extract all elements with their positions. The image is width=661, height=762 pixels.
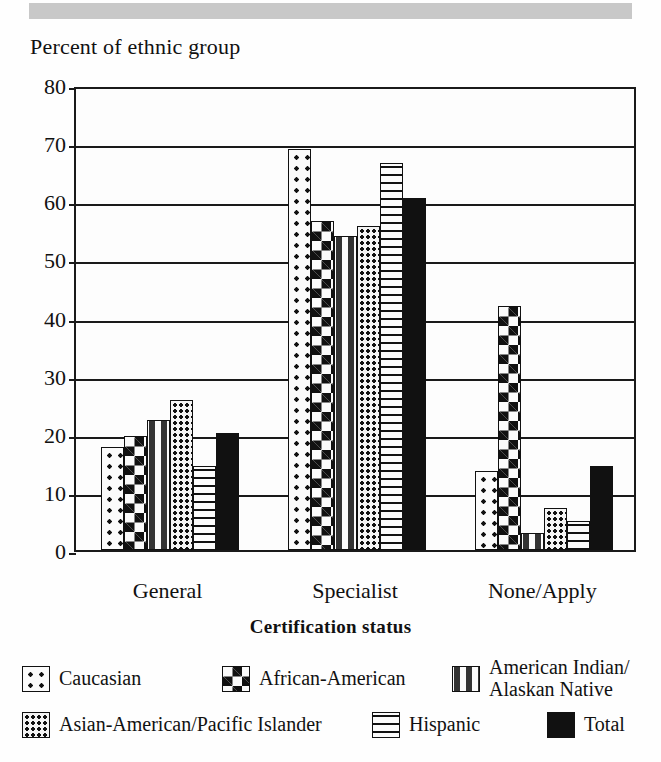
x-axis-tick-labels: GeneralSpecialistNone/Apply	[74, 578, 636, 608]
legend-label: Caucasian	[59, 668, 141, 690]
chart-plot-area: 80706050403020100	[28, 78, 638, 568]
y-tick-label: 60	[44, 192, 66, 214]
bar	[544, 508, 567, 550]
y-axis-tick	[69, 379, 76, 381]
bar	[311, 221, 334, 550]
y-axis-tick	[69, 495, 76, 497]
bar	[216, 433, 239, 550]
legend-item: Asian-American/Pacific Islander	[22, 712, 322, 738]
chart-legend: CaucasianAfrican-AmericanAmerican Indian…	[22, 656, 650, 748]
legend-item: American Indian/Alaskan Native	[452, 657, 630, 700]
y-axis-tick	[69, 146, 76, 148]
legend-label: Hispanic	[409, 714, 480, 736]
legend-row: Asian-American/Pacific IslanderHispanicT…	[22, 702, 650, 748]
legend-label: Asian-American/Pacific Islander	[59, 714, 322, 736]
x-tick-label: None/Apply	[488, 578, 597, 604]
legend-row: CaucasianAfrican-AmericanAmerican Indian…	[22, 656, 650, 702]
legend-swatch	[22, 666, 50, 692]
bar	[498, 306, 521, 550]
x-axis-title: Certification status	[0, 616, 661, 638]
bar	[147, 420, 170, 550]
y-axis-tick	[69, 437, 76, 439]
chart-title: Percent of ethnic group	[30, 34, 240, 60]
legend-swatch	[547, 712, 575, 738]
bar	[170, 400, 193, 550]
y-tick-label: 80	[44, 76, 66, 98]
y-axis-tick	[69, 321, 76, 323]
bar	[193, 466, 216, 550]
bar	[521, 533, 544, 550]
legend-swatch	[222, 666, 250, 692]
bar	[334, 236, 357, 550]
y-tick-label: 70	[44, 134, 66, 156]
legend-item: Total	[547, 712, 625, 738]
y-tick-label: 40	[44, 309, 66, 331]
bar-group	[263, 89, 450, 550]
legend-label: Total	[584, 714, 625, 736]
legend-label: American Indian/Alaskan Native	[489, 657, 630, 700]
bar	[403, 198, 426, 550]
bar	[475, 471, 498, 550]
x-tick-label: General	[133, 578, 203, 604]
y-axis-tick	[69, 204, 76, 206]
y-axis-tick	[69, 262, 76, 264]
bar	[567, 521, 590, 550]
bar	[380, 163, 403, 550]
y-axis-tick-labels: 80706050403020100	[28, 78, 66, 558]
x-tick-label: Specialist	[312, 578, 398, 604]
bar	[124, 436, 147, 550]
legend-label: African-American	[259, 668, 406, 690]
legend-swatch	[22, 712, 50, 738]
y-tick-label: 50	[44, 250, 66, 272]
y-tick-label: 30	[44, 367, 66, 389]
bar	[357, 226, 380, 550]
bar	[590, 466, 613, 550]
y-tick-label: 10	[44, 483, 66, 505]
y-axis-tick	[69, 553, 76, 555]
top-gray-band	[29, 3, 632, 19]
bar-groups	[76, 89, 634, 550]
y-tick-label: 20	[44, 425, 66, 447]
bar-group	[451, 89, 638, 550]
legend-item: Hispanic	[372, 712, 480, 738]
plot-frame	[74, 87, 636, 552]
bar	[101, 447, 124, 550]
legend-item: African-American	[222, 666, 406, 692]
y-tick-label: 0	[55, 541, 66, 563]
bar-group	[76, 89, 263, 550]
bar	[288, 149, 311, 550]
legend-swatch	[372, 712, 400, 738]
legend-item: Caucasian	[22, 666, 141, 692]
legend-swatch	[452, 666, 480, 692]
y-axis-tick	[69, 88, 76, 90]
